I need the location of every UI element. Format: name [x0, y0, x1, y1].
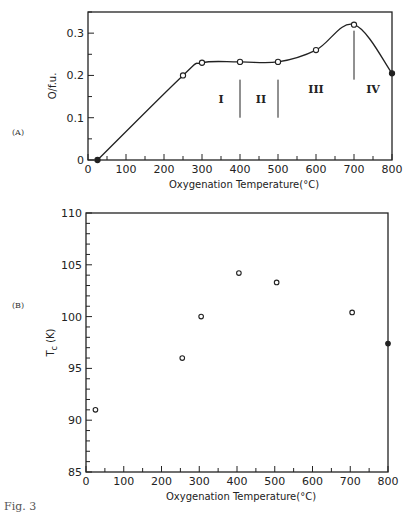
x-tick-label: 800 [378, 475, 399, 488]
data-point [313, 47, 318, 52]
y-tick-label: 110 [61, 207, 82, 220]
panel-label: (A) [12, 128, 24, 137]
chart-panel-b: 0100200300400500600700800859095100105110… [12, 207, 399, 502]
data-point [180, 73, 185, 78]
y-tick-label: 85 [68, 466, 82, 479]
y-axis-title: Tc (K) [45, 328, 59, 357]
x-tick-label: 800 [382, 163, 403, 176]
x-tick-label: 100 [113, 475, 134, 488]
data-line [98, 24, 393, 160]
figure: 010020030040050060070080000.10.20.3Oxyge… [0, 0, 411, 514]
y-tick-label: 105 [61, 259, 82, 272]
x-tick-label: 300 [189, 475, 210, 488]
data-point [199, 60, 204, 65]
x-tick-label: 200 [154, 163, 175, 176]
y-tick-label: 0.2 [67, 69, 85, 82]
x-axis-title: Oxygenation Temperature(°C) [166, 491, 316, 502]
x-tick-label: 400 [227, 475, 248, 488]
x-tick-label: 600 [306, 163, 327, 176]
y-tick-label: 0.3 [67, 27, 85, 40]
x-axis-title: Oxygenation Temperature(°C) [169, 179, 319, 190]
y-tick-label: 95 [68, 362, 82, 375]
x-tick-label: 100 [116, 163, 137, 176]
y-tick-label: 100 [61, 311, 82, 324]
x-tick-label: 600 [302, 475, 323, 488]
x-tick-label: 0 [85, 163, 92, 176]
region-label: I [218, 93, 223, 106]
x-tick-label: 700 [344, 163, 365, 176]
data-point [180, 356, 185, 361]
x-tick-label: 400 [230, 163, 251, 176]
data-point [95, 157, 100, 162]
data-point [237, 271, 242, 276]
y-tick-label: 0.1 [67, 112, 85, 125]
data-point [93, 408, 98, 413]
data-point [274, 280, 279, 285]
data-point [237, 59, 242, 64]
data-point [199, 314, 204, 319]
plot-frame [86, 213, 388, 472]
x-tick-label: 500 [268, 163, 289, 176]
y-tick-label: 90 [68, 414, 82, 427]
data-point [275, 59, 280, 64]
x-tick-label: 700 [340, 475, 361, 488]
data-point [389, 71, 394, 76]
data-point [350, 310, 355, 315]
y-axis-title: O/f.u. [47, 73, 58, 100]
region-label: II [256, 93, 266, 106]
x-tick-label: 0 [83, 475, 90, 488]
y-tick-label: 0 [77, 154, 84, 167]
x-tick-label: 500 [264, 475, 285, 488]
region-label: IV [366, 83, 380, 96]
chart-panel-a: 010020030040050060070080000.10.20.3Oxyge… [12, 12, 403, 190]
panel-label: (B) [12, 301, 24, 310]
figure-caption: Fig. 3 [4, 500, 36, 513]
region-label: III [308, 83, 323, 96]
x-tick-label: 200 [151, 475, 172, 488]
x-tick-label: 300 [192, 163, 213, 176]
data-point [386, 341, 391, 346]
data-point [351, 22, 356, 27]
